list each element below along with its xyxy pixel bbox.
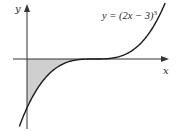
x-axis-label: x (163, 65, 169, 76)
shaded-area-region (27, 59, 95, 108)
y-axis-label: y (14, 3, 21, 14)
graph-figure: y x y = (2x − 3)3 (0, 0, 180, 131)
equation-exponent: 3 (154, 9, 158, 17)
y-axis-arrow-icon (24, 4, 30, 12)
equation-base: y = (2x − 3) (101, 10, 154, 22)
equation-label: y = (2x − 3)3 (101, 9, 158, 22)
x-axis-arrow-icon (161, 56, 169, 62)
